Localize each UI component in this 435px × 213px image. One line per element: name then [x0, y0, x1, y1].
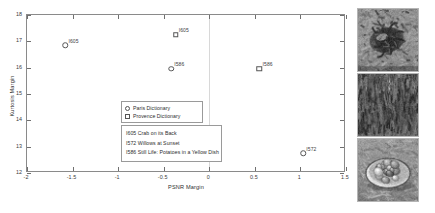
annotation-box: I605 Crab on its BackI572 Willows at Sun…	[121, 125, 222, 162]
x-tick-label: -1	[115, 174, 120, 180]
x-tick	[209, 167, 210, 171]
figure-panel: I605I586I572I605I586 Paris DictionaryPro…	[0, 0, 435, 213]
willows-at-sunset-thumbnail	[357, 73, 419, 137]
y-tick	[27, 94, 31, 95]
circle-marker-icon	[125, 106, 130, 111]
x-tick	[73, 167, 74, 171]
chart-legend: Paris DictionaryProvence Dictionary	[121, 101, 203, 123]
y-tick	[27, 68, 31, 69]
x-tick-top	[118, 15, 119, 19]
annotation-row: I572 Willows at Sunset	[126, 139, 217, 149]
data-point-label: I586	[263, 61, 273, 67]
y-tick	[27, 15, 31, 16]
x-tick	[346, 167, 347, 171]
x-tick-top	[73, 15, 74, 19]
x-tick	[300, 167, 301, 171]
annotation-row: I586 Still Life: Potatoes in a Yellow Di…	[126, 148, 217, 158]
x-tick-label: 1.5	[341, 174, 349, 180]
x-tick	[27, 167, 28, 171]
thumbnail-strip	[357, 8, 425, 205]
square-marker-icon	[125, 114, 130, 119]
x-tick-top	[346, 15, 347, 19]
data-point-i605-square	[173, 32, 179, 38]
data-point-label: I586	[174, 61, 184, 67]
y-tick-right	[340, 120, 344, 121]
x-tick-label: -1.5	[67, 174, 77, 180]
y-tick-right	[340, 68, 344, 69]
x-tick	[255, 167, 256, 171]
legend-entry: Paris Dictionary	[125, 104, 199, 112]
data-point-i605-circle	[63, 43, 69, 49]
x-tick-label: -0.5	[158, 174, 168, 180]
x-tick-top	[255, 15, 256, 19]
data-point-i586-circle	[168, 66, 174, 72]
y-tick-right	[340, 147, 344, 148]
y-tick-label: 12	[8, 169, 22, 175]
data-point-i572-circle	[300, 151, 306, 157]
x-tick-top	[300, 15, 301, 19]
y-tick-right	[340, 15, 344, 16]
x-tick-top	[164, 15, 165, 19]
x-axis-title: PSNR Margin	[168, 184, 204, 190]
y-tick	[27, 120, 31, 121]
potatoes-in-a-yellow-dish-thumbnail	[357, 138, 419, 202]
y-tick-label: 18	[8, 11, 22, 17]
x-tick-label: 0.5	[250, 174, 258, 180]
x-tick	[164, 167, 165, 171]
x-tick	[118, 167, 119, 171]
y-tick	[27, 147, 31, 148]
scatter-chart: I605I586I572I605I586 Paris DictionaryPro…	[0, 0, 350, 213]
crab-on-its-back-thumbnail	[357, 8, 419, 72]
data-point-label: I605	[179, 27, 189, 33]
y-tick-label: 17	[8, 37, 22, 43]
data-point-label: I605	[68, 38, 78, 44]
data-point-label: I572	[306, 146, 316, 152]
data-point-i586-square	[257, 66, 263, 72]
annotation-row: I605 Crab on its Back	[126, 129, 217, 139]
x-tick-label: 0	[207, 174, 210, 180]
legend-entry: Provence Dictionary	[125, 112, 199, 120]
legend-entry-label: Provence Dictionary	[133, 113, 180, 119]
y-tick-label: 13	[8, 143, 22, 149]
legend-entry-label: Paris Dictionary	[133, 105, 170, 111]
x-tick-label: 1	[298, 174, 301, 180]
y-tick	[27, 41, 31, 42]
x-tick-top	[209, 15, 210, 19]
x-tick-label: -2	[24, 174, 29, 180]
y-axis-title: Kurtosis Margin	[9, 61, 15, 131]
y-tick-right	[340, 94, 344, 95]
y-tick-right	[340, 41, 344, 42]
plot-area: I605I586I572I605I586 Paris DictionaryPro…	[26, 14, 345, 172]
